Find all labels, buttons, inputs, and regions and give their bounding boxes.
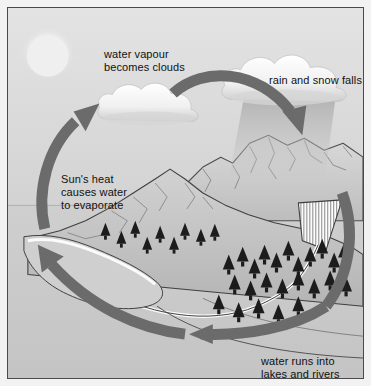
label-water-vapour: water vapour becomes clouds — [104, 48, 185, 74]
label-rain-snow: rain and snow falls — [269, 74, 362, 87]
illustration-frame: water vapour becomes clouds rain and sno… — [7, 7, 364, 379]
label-suns-heat: Sun's heat causes water to evaporate — [61, 173, 127, 212]
sun-core — [27, 35, 69, 77]
screenshot-root: water vapour becomes clouds rain and sno… — [0, 0, 371, 386]
label-water-runs: water runs into lakes and rivers — [261, 355, 340, 379]
